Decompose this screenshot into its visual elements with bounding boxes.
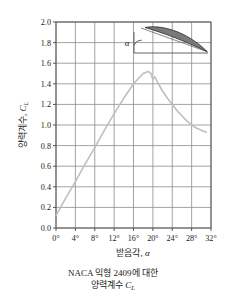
x-tick-label: 0°	[52, 234, 59, 243]
y-tick-label: 0.8	[41, 142, 51, 151]
x-axis-title-symbol: α	[145, 248, 150, 258]
y-tick-label: 1.0	[41, 121, 51, 130]
caption-line-2: 양력계수 CL	[91, 279, 135, 291]
caption-line-2-subscript: L	[130, 284, 135, 291]
x-tick-label: 28°	[186, 234, 197, 243]
y-axis-title: 양력계수, CL	[17, 102, 29, 149]
alpha-inset-label: α	[125, 38, 130, 48]
caption-line-2-main: 양력계수	[91, 279, 125, 290]
x-tick-label: 20°	[147, 234, 158, 243]
x-tick-label: 8°	[91, 234, 98, 243]
lift-coefficient-chart: 0.00.20.40.60.81.01.21.41.61.82.0 0°4°8°…	[0, 0, 227, 294]
y-tick-label: 1.4	[41, 80, 51, 89]
y-tick-label: 0.4	[41, 183, 51, 192]
caption-line-1: NACA 익형 2409에 대한	[68, 267, 158, 278]
y-axis-title-main: 양력계수,	[17, 112, 28, 149]
y-tick-label: 1.8	[41, 39, 51, 48]
x-tick-label: 12°	[108, 234, 119, 243]
x-axis-title-main: 받음각,	[116, 247, 145, 258]
x-tick-label: 32°	[205, 234, 216, 243]
x-tick-label: 16°	[128, 234, 139, 243]
y-axis-title-subscript: L	[22, 102, 29, 107]
x-tick-label: 4°	[72, 234, 79, 243]
y-tick-label: 1.6	[41, 59, 51, 68]
y-tick-label: 1.2	[41, 100, 51, 109]
x-tick-label: 24°	[167, 234, 178, 243]
y-tick-label: 0.0	[41, 224, 51, 233]
y-tick-label: 2.0	[41, 18, 51, 27]
x-axis-title: 받음각, α	[116, 247, 150, 258]
figure-container: 0.00.20.40.60.81.01.21.41.61.82.0 0°4°8°…	[0, 0, 227, 294]
y-tick-label: 0.2	[41, 203, 51, 212]
x-axis-tick-labels: 0°4°8°12°16°20°24°28°32°	[52, 234, 216, 243]
svg-text:양력계수, CL: 양력계수, CL	[17, 102, 29, 149]
y-tick-label: 0.6	[41, 162, 51, 171]
